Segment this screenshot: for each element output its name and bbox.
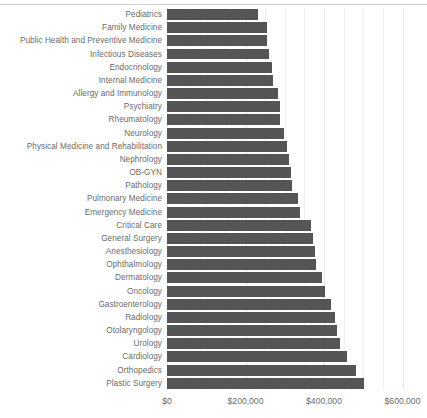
bar-fill [167,365,356,376]
bar-row: Otolaryngology [0,324,427,337]
bar-fill [167,114,280,125]
bar-row: Pediatrics [0,8,427,21]
bar-category-label: Psychiatry [0,100,162,113]
bar-row: Infectious Diseases [0,48,427,61]
bar [167,286,325,297]
bar-row: Orthopedics [0,364,427,377]
bar-fill [167,351,347,362]
bar-row: Emergency Medicine [0,206,427,219]
bar-row: Public Health and Preventive Medicine [0,34,427,47]
bar-category-label: Critical Care [0,219,162,232]
bar-fill [167,299,331,310]
x-tick-label: $200,000 [228,396,264,406]
bar [167,312,335,323]
bar [167,75,273,86]
bar [167,351,347,362]
bar-row: Anesthesiology [0,245,427,258]
bar-row: Urology [0,337,427,350]
x-tick-label: $400,000 [306,396,342,406]
bar [167,220,311,231]
bar-category-label: Rheumatology [0,113,162,126]
bar-fill [167,246,315,257]
bar-category-label: Infectious Diseases [0,48,162,61]
x-tick-label: $600,000 [385,396,421,406]
bar [167,299,331,310]
bar [167,193,298,204]
bar-fill [167,141,287,152]
bar-fill [167,338,340,349]
bar-row: Physical Medicine and Rehabilitation [0,140,427,153]
bar-category-label: OB-GYN [0,166,162,179]
x-tick-label: $0 [162,396,172,406]
bar-fill [167,259,316,270]
bar-category-label: Family Medicine [0,21,162,34]
bar-category-label: Allergy and Immunology [0,87,162,100]
bar-row: Pulmonary Medicine [0,192,427,205]
bar [167,167,291,178]
bar [167,154,289,165]
bar-fill [167,88,278,99]
bar-category-label: Dermatology [0,271,162,284]
bar-fill [167,378,364,389]
bar-category-label: General Surgery [0,232,162,245]
bar-row: Pathology [0,179,427,192]
x-axis: $0$200,000$400,000$600,000 [0,390,427,418]
bar-row: Rheumatology [0,113,427,126]
bar [167,35,267,46]
bar-fill [167,180,292,191]
bar-fill [167,62,272,73]
bar-row: Allergy and Immunology [0,87,427,100]
bar-row: Neurology [0,127,427,140]
bar-category-label: Orthopedics [0,364,162,377]
bar-category-label: Emergency Medicine [0,206,162,219]
bar-row: Psychiatry [0,100,427,113]
bar-fill [167,35,267,46]
bar-row: Plastic Surgery [0,377,427,390]
bar [167,180,292,191]
bar-fill [167,207,300,218]
bar-category-label: Pediatrics [0,8,162,21]
bar [167,378,364,389]
salary-bar-chart: PediatricsFamily MedicinePublic Health a… [0,0,427,418]
bar [167,325,337,336]
bar-fill [167,272,322,283]
bar [167,9,258,20]
bar [167,207,300,218]
bar-category-label: Pathology [0,179,162,192]
bar-category-label: Internal Medicine [0,74,162,87]
bar-row: Gastroenterology [0,298,427,311]
bar-category-label: Plastic Surgery [0,377,162,390]
bar-row: Family Medicine [0,21,427,34]
bar-row: OB-GYN [0,166,427,179]
bar-row: Nephrology [0,153,427,166]
bar-category-label: Cardiology [0,350,162,363]
bar-fill [167,233,313,244]
bar [167,88,278,99]
top-divider [0,4,427,5]
bar-category-label: Urology [0,337,162,350]
bar-category-label: Endocrinology [0,61,162,74]
bar-row: General Surgery [0,232,427,245]
bar [167,259,316,270]
bar [167,128,284,139]
bar [167,246,315,257]
bar-fill [167,75,273,86]
bar-category-label: Otolaryngology [0,324,162,337]
bar-row: Cardiology [0,350,427,363]
bar [167,338,340,349]
bar-fill [167,312,335,323]
bar-row: Endocrinology [0,61,427,74]
bar-fill [167,220,311,231]
bar [167,365,356,376]
bar-row: Radiology [0,311,427,324]
bar [167,22,267,33]
bar-category-label: Gastroenterology [0,298,162,311]
bar-row: Dermatology [0,271,427,284]
bar-fill [167,128,284,139]
bar-category-label: Nephrology [0,153,162,166]
bar-category-label: Oncology [0,285,162,298]
bar [167,141,287,152]
bar-category-label: Physical Medicine and Rehabilitation [0,140,162,153]
bar [167,101,280,112]
bar-category-label: Radiology [0,311,162,324]
